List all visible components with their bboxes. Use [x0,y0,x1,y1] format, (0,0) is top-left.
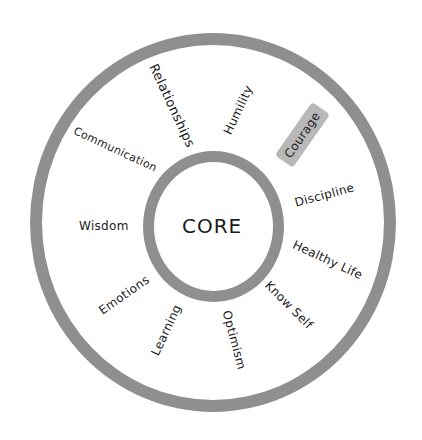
item-wisdom: Wisdom [79,219,129,233]
core-values-diagram: CORE Relationships Humility Courage Disc… [0,0,422,440]
core-label: CORE [182,214,242,238]
